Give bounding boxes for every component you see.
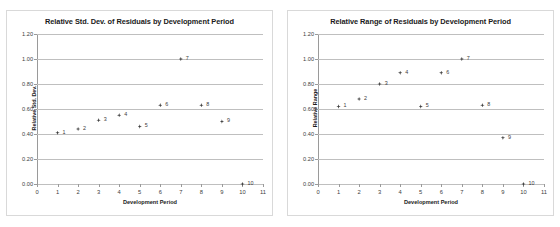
x-tick-mark [503,184,504,187]
data-point-label: 2 [364,95,367,101]
data-point-marker-icon [398,71,402,75]
x-tick-mark [318,184,319,187]
y-tick-mark [34,34,37,35]
x-tick-mark [201,184,202,187]
data-point-marker-icon [96,118,100,122]
y-tick-label: 0.00 [22,181,33,187]
x-tick-mark [99,184,100,187]
data-point-marker-icon [199,103,203,107]
gridline [318,84,544,85]
data-point-label: 7 [467,55,470,61]
gridline [37,109,263,110]
data-point-label: 3 [104,116,107,122]
y-tick-mark [34,59,37,60]
x-tick-label: 6 [159,189,162,195]
gridline [318,159,544,160]
data-point-marker-icon [357,97,361,101]
x-tick-label: 5 [419,189,422,195]
chart-panel-left: Relative Std. Dev. of Residuals by Devel… [6,10,273,216]
y-tick-label: 0.20 [303,156,314,162]
y-tick-label: 1.00 [303,56,314,62]
data-point-marker-icon [480,103,484,107]
gridline [37,34,263,35]
y-tick-mark [315,59,318,60]
x-tick-mark [58,184,59,187]
data-point-label: 1 [63,129,66,135]
data-point-marker-icon [158,103,162,107]
gridline [37,184,263,185]
chart-title-left: Relative Std. Dev. of Residuals by Devel… [7,17,272,26]
x-tick-label: 9 [220,189,223,195]
y-tick-mark [34,159,37,160]
x-tick-label: 4 [399,189,402,195]
data-point-label: 6 [446,69,449,75]
x-tick-label: 11 [260,189,266,195]
data-point-label: 8 [487,101,490,107]
data-point-label: 2 [83,125,86,131]
data-point-label: 7 [186,55,189,61]
x-tick-mark [37,184,38,187]
y-tick-label: 1.00 [22,56,33,62]
data-point-marker-icon [138,124,142,128]
x-tick-label: 7 [179,189,182,195]
y-tick-mark [315,34,318,35]
data-point-marker-icon [117,113,121,117]
gridline [318,59,544,60]
data-point-marker-icon [377,82,381,86]
plot-area-left: 0.000.200.400.600.801.001.20 01234567891… [37,34,263,184]
gridline [37,84,263,85]
data-point-label: 4 [124,111,127,117]
gridline [318,34,544,35]
x-tick-mark [160,184,161,187]
y-axis-title-right: Relative Range [312,78,318,138]
x-tick-mark [441,184,442,187]
x-tick-label: 4 [118,189,121,195]
data-point-marker-icon [220,119,224,123]
x-tick-label: 2 [76,189,79,195]
x-tick-label: 8 [200,189,203,195]
x-tick-label: 2 [357,189,360,195]
x-tick-label: 10 [520,189,526,195]
data-point-label: 10 [528,180,534,186]
y-tick-label: 1.20 [303,31,314,37]
x-tick-label: 11 [541,189,547,195]
data-point-label: 3 [385,80,388,86]
x-tick-label: 9 [501,189,504,195]
data-point-marker-icon [521,182,525,186]
data-point-marker-icon [439,71,443,75]
data-point-label: 5 [426,102,429,108]
y-tick-mark [315,159,318,160]
x-tick-label: 1 [56,189,59,195]
x-tick-label: 8 [481,189,484,195]
y-axis-title-left: Relative Std. Dev. [31,78,37,138]
gridline [37,159,263,160]
gridline [37,134,263,135]
plot-area-right: 0.000.200.400.600.801.001.20 01234567891… [318,34,544,184]
x-axis-title-right: Development Period [318,199,544,205]
x-tick-mark [380,184,381,187]
x-tick-mark [140,184,141,187]
y-tick-label: 1.20 [22,31,33,37]
data-point-label: 5 [145,122,148,128]
x-tick-label: 10 [239,189,245,195]
data-point-marker-icon [76,127,80,131]
data-point-label: 10 [247,180,253,186]
x-tick-label: 5 [138,189,141,195]
x-tick-mark [482,184,483,187]
x-tick-mark [544,184,545,187]
x-tick-label: 3 [97,189,100,195]
x-tick-mark [359,184,360,187]
x-tick-label: 3 [378,189,381,195]
figure-root: Relative Std. Dev. of Residuals by Devel… [0,0,560,227]
y-tick-label: 0.20 [22,156,33,162]
data-point-label: 8 [206,101,209,107]
data-point-label: 9 [227,117,230,123]
data-point-label: 1 [344,102,347,108]
data-point-label: 9 [508,134,511,140]
x-tick-label: 6 [440,189,443,195]
x-tick-mark [263,184,264,187]
x-tick-mark [119,184,120,187]
x-tick-label: 1 [337,189,340,195]
x-tick-mark [339,184,340,187]
gridline [318,184,544,185]
